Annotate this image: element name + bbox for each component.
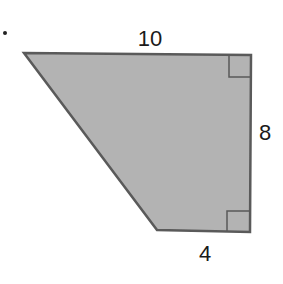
trapezoid-shape bbox=[24, 53, 251, 232]
label-bottom: 4 bbox=[199, 241, 211, 266]
label-right: 8 bbox=[259, 120, 271, 145]
trapezoid-figure: 10 8 4 bbox=[0, 0, 283, 284]
label-top: 10 bbox=[138, 26, 162, 51]
